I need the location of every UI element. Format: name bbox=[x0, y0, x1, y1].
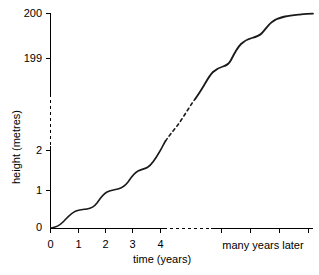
y-axis-title: height (metres) bbox=[11, 110, 22, 184]
chart-container: 200 199 2 1 0 0 1 2 3 4 many years later… bbox=[0, 0, 319, 275]
y-tick-label-0: 0 bbox=[8, 222, 42, 233]
growth-curve-solid-upper bbox=[196, 14, 314, 99]
y-tick-label-1: 1 bbox=[8, 185, 42, 196]
x-tick-label-3: 3 bbox=[121, 239, 144, 250]
x-tick-label-2: 2 bbox=[94, 239, 117, 250]
y-tick-label-200: 200 bbox=[8, 8, 42, 19]
growth-curve-dashed-break bbox=[166, 99, 196, 142]
x-axis-title: time (years) bbox=[133, 254, 191, 265]
x-axis-region-label-many-years-later: many years later bbox=[208, 239, 318, 251]
x-tick-label-0: 0 bbox=[39, 239, 62, 250]
y-tick-label-199: 199 bbox=[8, 53, 42, 64]
x-tick-label-1: 1 bbox=[67, 239, 90, 250]
x-tick-label-4: 4 bbox=[149, 239, 172, 250]
growth-curve-solid-lower bbox=[51, 141, 166, 228]
growth-curve-plot bbox=[0, 0, 319, 275]
